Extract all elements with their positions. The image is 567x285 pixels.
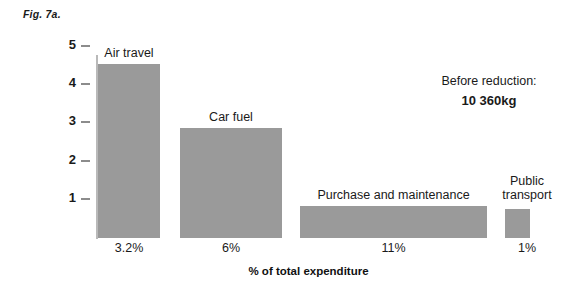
y-tick-mark-3 [81,121,90,123]
bar-label-purchase-and-maintenance: Purchase and maintenance [299,188,488,202]
bar-label-air-travel: Air travel [79,46,179,60]
y-tick-label-4: 4 [69,75,76,90]
x-tick-label-purchase-and-maintenance: 11% [299,241,488,255]
y-tick-mark-2 [81,160,90,162]
annotation-label: Before reduction: [424,72,554,91]
y-tick-label-1: 1 [69,190,76,205]
y-tick-label-5: 5 [69,37,76,52]
figure-7a: Fig. 7a. Emission intensity, CO2 e/£ 5 4… [0,0,567,285]
bar-car-fuel [180,128,282,238]
bar-purchase-and-maintenance [300,206,487,238]
y-tick-label-2: 2 [69,152,76,167]
x-tick-label-car-fuel: 6% [181,241,281,255]
bar-public-transport [505,209,530,238]
before-reduction-annotation: Before reduction: 10 360kg [424,72,554,110]
annotation-value: 10 360kg [424,91,554,110]
y-tick-label-3: 3 [69,113,76,128]
bar-label-public-transport: Public transport [494,174,560,202]
bar-label-car-fuel: Car fuel [181,110,281,124]
x-axis-title: % of total expenditure [0,265,567,277]
x-tick-label-air-travel: 3.2% [79,241,179,255]
y-tick-mark-4 [81,83,90,85]
bar-air-travel [98,64,160,238]
y-tick-mark-1 [81,198,90,200]
x-tick-label-public-transport: 1% [494,241,560,255]
figure-caption: Fig. 7a. [23,8,61,20]
